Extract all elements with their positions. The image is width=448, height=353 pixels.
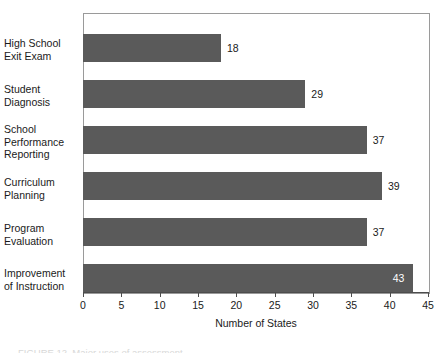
x-tick-15 <box>198 292 199 297</box>
category-axis-labels: High School Exit Exam Student Diagnosis … <box>0 13 78 292</box>
horizontal-bar-chart: High School Exit Exam Student Diagnosis … <box>0 0 448 353</box>
bar-curriculum-planning <box>83 172 382 200</box>
bar-value-label-4: 37 <box>373 218 385 246</box>
x-tick-label-15: 15 <box>192 299 204 311</box>
x-tick-0 <box>83 292 84 297</box>
x-tick-45 <box>428 292 429 297</box>
x-tick-label-35: 35 <box>345 299 357 311</box>
x-tick-35 <box>351 292 352 297</box>
bar-improvement-of-instruction <box>83 264 413 292</box>
x-tick-label-5: 5 <box>118 299 124 311</box>
figure-caption: FIGURE 12. Major uses of assessment <box>18 347 183 353</box>
category-label-student-diagnosis: Student Diagnosis <box>4 83 74 108</box>
x-tick-label-30: 30 <box>307 299 319 311</box>
x-tick-25 <box>275 292 276 297</box>
bars-layer: 18 29 37 39 37 43 <box>83 13 428 292</box>
x-tick-20 <box>236 292 237 297</box>
bar-program-evaluation <box>83 218 367 246</box>
category-label-improvement-of-instruction: Improvement of Instruction <box>4 267 74 292</box>
x-tick-label-20: 20 <box>230 299 242 311</box>
bar-school-performance-reporting <box>83 126 367 154</box>
x-tick-40 <box>390 292 391 297</box>
x-tick-label-40: 40 <box>384 299 396 311</box>
bar-value-label-2: 37 <box>373 126 385 154</box>
x-tick-label-10: 10 <box>154 299 166 311</box>
category-label-high-school-exit-exam: High School Exit Exam <box>4 37 74 62</box>
bar-value-label-3: 39 <box>388 172 400 200</box>
bar-high-school-exit-exam <box>83 34 221 62</box>
x-tick-5 <box>121 292 122 297</box>
x-tick-10 <box>160 292 161 297</box>
x-tick-30 <box>313 292 314 297</box>
bar-value-label-1: 29 <box>311 80 323 108</box>
x-tick-label-0: 0 <box>80 299 86 311</box>
category-label-program-evaluation: Program Evaluation <box>4 222 74 247</box>
bar-student-diagnosis <box>83 80 305 108</box>
category-label-curriculum-planning: Curriculum Planning <box>4 176 74 201</box>
x-axis-title: Number of States <box>83 317 429 329</box>
x-axis-line <box>83 292 429 293</box>
bar-value-label-0: 18 <box>227 34 239 62</box>
category-label-school-performance-reporting: School Performance Reporting <box>4 123 74 161</box>
x-tick-label-45: 45 <box>422 299 434 311</box>
x-tick-label-25: 25 <box>269 299 281 311</box>
bar-value-label-5: 43 <box>393 264 405 292</box>
